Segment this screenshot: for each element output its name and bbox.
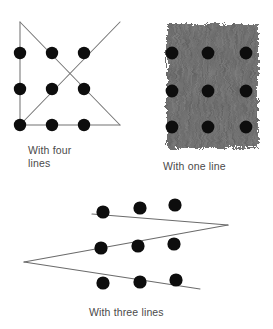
dot xyxy=(14,83,26,95)
caption-three-lines: With three lines xyxy=(89,306,239,319)
dot xyxy=(202,85,215,98)
dot xyxy=(46,119,58,131)
puzzle-four-lines xyxy=(0,0,140,140)
dot xyxy=(94,241,107,254)
dot xyxy=(46,83,58,95)
four-lines-diagram xyxy=(0,0,140,140)
figure-canvas: With four lines xyxy=(0,0,273,329)
dot xyxy=(168,198,181,211)
caption-one-line: With one line xyxy=(163,160,273,173)
four-lines-dot-grid xyxy=(14,47,90,131)
dot xyxy=(133,201,146,214)
three-lines-diagram xyxy=(0,186,273,296)
dot xyxy=(202,47,215,60)
one-line-diagram xyxy=(140,0,273,155)
dot xyxy=(131,239,144,252)
dot xyxy=(78,119,90,131)
three-lines-path-group xyxy=(24,214,228,289)
caption-four-lines: With four lines xyxy=(28,144,128,170)
dot xyxy=(166,47,179,60)
dot xyxy=(166,85,179,98)
dot xyxy=(133,275,146,288)
dot xyxy=(14,119,26,131)
dot xyxy=(169,273,182,286)
dot xyxy=(96,205,109,218)
four-lines-path-group xyxy=(20,22,120,125)
dot xyxy=(202,121,215,134)
dot xyxy=(240,121,253,134)
zigzag-top-line xyxy=(92,214,228,225)
dot xyxy=(78,83,90,95)
dot xyxy=(167,237,180,250)
dot xyxy=(78,47,90,59)
dot xyxy=(166,121,179,134)
dot xyxy=(240,85,253,98)
puzzle-one-line xyxy=(140,0,273,155)
dot xyxy=(96,276,109,289)
dot xyxy=(14,47,26,59)
puzzle-three-lines xyxy=(0,186,273,296)
dot xyxy=(46,47,58,59)
dot xyxy=(240,47,253,60)
zigzag-middle-line xyxy=(24,225,228,262)
three-lines-dot-grid xyxy=(94,198,182,289)
